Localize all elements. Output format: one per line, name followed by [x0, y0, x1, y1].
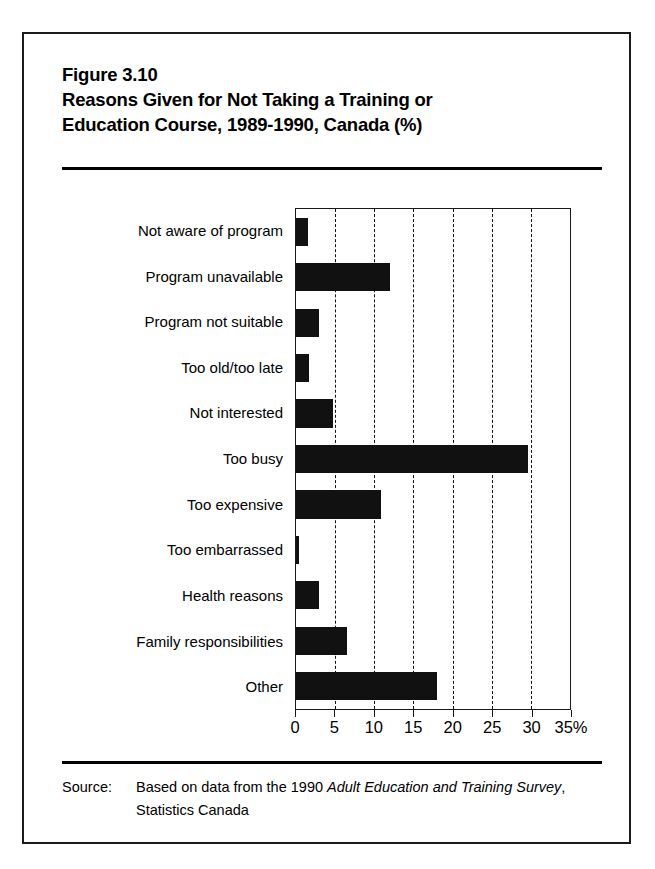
tick-label-10: 10 [365, 718, 383, 737]
figure-title-line-1: Reasons Given for Not Taking a Training … [62, 87, 602, 112]
bar-row [296, 300, 570, 345]
category-label-not-aware-of-program: Not aware of program [64, 208, 291, 254]
bar-other [296, 672, 437, 700]
tick-mark-30 [532, 710, 533, 717]
category-label-family-responsibilities: Family responsibilities [64, 619, 291, 665]
bar-program-unavailable [296, 263, 390, 291]
category-label-too-embarrassed: Too embarrassed [64, 527, 291, 573]
category-label-too-old-too-late: Too old/too late [64, 345, 291, 391]
source-divider-rule [62, 761, 602, 764]
bars-layer [296, 209, 570, 709]
bar-row [296, 436, 570, 481]
category-label-other: Other [64, 664, 291, 710]
source-label: Source: [62, 776, 136, 799]
tick-mark-20 [453, 710, 454, 717]
bar-row [296, 391, 570, 436]
bar-program-not-suitable [296, 309, 319, 337]
source-survey-name: Adult Education and Training Survey [327, 779, 561, 795]
tick-label-35: 35% [554, 718, 587, 737]
bar-chart: Not aware of programProgram unavailableP… [24, 184, 629, 744]
source-text-before-italic: Based on data from the 1990 [136, 779, 327, 795]
category-label-health-reasons: Health reasons [64, 573, 291, 619]
tick-label-15: 15 [404, 718, 422, 737]
category-label-program-not-suitable: Program not suitable [64, 299, 291, 345]
bar-too-old-too-late [296, 354, 309, 382]
tick-mark-25 [492, 710, 493, 717]
bar-row [296, 527, 570, 572]
tick-mark-35 [571, 710, 572, 717]
category-label-too-expensive: Too expensive [64, 482, 291, 528]
source-text: Based on data from the 1990 Adult Educat… [136, 776, 576, 822]
category-label-too-busy: Too busy [64, 436, 291, 482]
category-label-not-interested: Not interested [64, 391, 291, 437]
bar-row [296, 482, 570, 527]
tick-mark-10 [374, 710, 375, 717]
bar-too-embarrassed [296, 536, 299, 564]
category-axis-labels: Not aware of programProgram unavailableP… [64, 208, 291, 710]
bar-health-reasons [296, 581, 319, 609]
tick-label-20: 20 [444, 718, 462, 737]
source-note: Source:Based on data from the 1990 Adult… [62, 776, 607, 822]
figure-number: Figure 3.10 [62, 62, 602, 87]
figure-title-block: Figure 3.10 Reasons Given for Not Taking… [62, 62, 602, 137]
bar-family-responsibilities [296, 627, 347, 655]
tick-label-30: 30 [522, 718, 540, 737]
bar-row [296, 209, 570, 254]
bar-too-busy [296, 445, 528, 473]
tick-label-25: 25 [483, 718, 501, 737]
plot-area [295, 208, 571, 710]
bar-not-interested [296, 399, 333, 427]
bar-row [296, 618, 570, 663]
bar-row [296, 573, 570, 618]
value-axis: 05101520253035% [295, 710, 571, 744]
title-divider-rule [62, 167, 602, 170]
bar-row [296, 345, 570, 390]
bar-row [296, 254, 570, 299]
figure-title-line-2: Education Course, 1989-1990, Canada (%) [62, 112, 602, 137]
tick-label-0: 0 [290, 718, 299, 737]
tick-mark-0 [295, 710, 296, 717]
bar-too-expensive [296, 490, 381, 518]
category-label-program-unavailable: Program unavailable [64, 254, 291, 300]
figure-frame: Figure 3.10 Reasons Given for Not Taking… [22, 32, 631, 844]
tick-label-5: 5 [330, 718, 339, 737]
tick-mark-15 [413, 710, 414, 717]
bar-row [296, 664, 570, 709]
bar-not-aware-of-program [296, 218, 308, 246]
tick-mark-5 [334, 710, 335, 717]
